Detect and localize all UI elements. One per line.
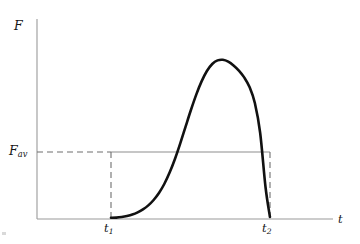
figure-root: F Fav t1 t2 t <box>0 0 360 244</box>
average-force-label: Fav <box>9 145 28 158</box>
y-axis-label: F <box>14 20 23 33</box>
average-force-label-main: F <box>9 143 18 158</box>
x-axis-label-text: t <box>338 212 343 226</box>
t2-tick-label: t2 <box>262 223 272 235</box>
force-time-plot <box>0 0 360 244</box>
t1-tick-label-main: t <box>104 221 109 235</box>
force-curve <box>111 60 270 218</box>
t1-tick-label: t1 <box>104 223 114 235</box>
scan-artifact-speck <box>2 232 6 235</box>
t2-tick-label-subscript: 2 <box>267 227 272 236</box>
t2-tick-label-main: t <box>262 221 267 235</box>
y-axis-label-text: F <box>14 18 23 33</box>
x-axis-label: t <box>338 214 343 226</box>
average-force-label-subscript: av <box>18 149 28 159</box>
t1-tick-label-subscript: 1 <box>109 227 114 236</box>
